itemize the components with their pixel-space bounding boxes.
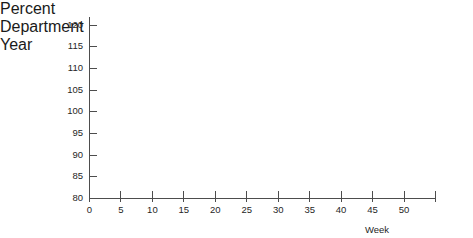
y-tick-label: 120 — [67, 19, 83, 30]
x-tick: 35 — [309, 191, 310, 202]
x-tick: 5 — [120, 191, 121, 202]
y-tick-label: 100 — [67, 105, 83, 116]
x-tick-label: 35 — [304, 204, 315, 215]
x-tick-label: 15 — [179, 204, 190, 215]
y-tick: 85 — [90, 176, 97, 177]
x-axis-title: Week — [365, 224, 389, 235]
chart-screenshot: Percent Department Year 8085909510010511… — [0, 0, 473, 238]
y-tick-label: 90 — [72, 149, 83, 160]
x-tick-label: 5 — [118, 204, 123, 215]
x-tick: 0 — [89, 191, 90, 202]
x-tick: 30 — [278, 191, 279, 202]
y-tick: 100 — [90, 111, 97, 112]
x-axis-line — [89, 198, 435, 199]
y-tick: 105 — [90, 90, 97, 91]
x-tick-label: 10 — [147, 204, 158, 215]
x-tick: 20 — [215, 191, 216, 202]
y-tick: 120 — [90, 25, 97, 26]
x-tick-label: 50 — [399, 204, 410, 215]
x-tick-label: 30 — [273, 204, 284, 215]
y-tick-label: 80 — [72, 192, 83, 203]
plot-area — [90, 17, 435, 198]
x-tick: 10 — [152, 191, 153, 202]
y-tick-label: 95 — [72, 127, 83, 138]
x-tick-label: 25 — [241, 204, 252, 215]
x-tick: 15 — [183, 191, 184, 202]
plot-frame: 80859095100105110115120 0510152025303540… — [89, 17, 435, 199]
y-tick-label: 105 — [67, 84, 83, 95]
x-tick: 45 — [372, 191, 373, 202]
x-tick-label: 40 — [336, 204, 347, 215]
x-tick — [435, 191, 436, 202]
y-tick: 110 — [90, 68, 97, 69]
y-tick-label: 110 — [68, 62, 83, 73]
y-tick: 95 — [90, 133, 97, 134]
x-tick-label: 0 — [87, 204, 92, 215]
y-tick: 115 — [90, 46, 97, 47]
x-tick: 25 — [246, 191, 247, 202]
y-tick: 90 — [90, 155, 97, 156]
y-axis-title: Percent — [0, 0, 473, 18]
x-tick: 50 — [404, 191, 405, 202]
x-tick-label: 45 — [367, 204, 378, 215]
y-tick: 80 — [90, 198, 97, 199]
x-tick-label: 20 — [210, 204, 221, 215]
y-tick-label: 85 — [72, 170, 83, 181]
y-tick-label: 115 — [68, 40, 83, 51]
x-tick: 40 — [341, 191, 342, 202]
y-axis-line — [89, 17, 90, 199]
